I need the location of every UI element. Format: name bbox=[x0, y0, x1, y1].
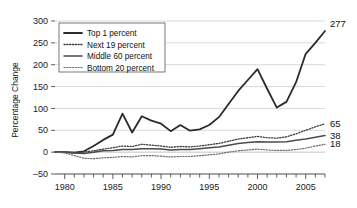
chart-background bbox=[0, 0, 357, 208]
y-tick-label: 250 bbox=[33, 38, 48, 48]
y-axis-label: Percentage Change bbox=[10, 62, 20, 138]
legend-label-2: Middle 60 percent bbox=[87, 52, 153, 61]
y-tick-label: 50 bbox=[38, 125, 48, 135]
x-tick-label: 1980 bbox=[55, 182, 75, 192]
legend-label-0: Top 1 percent bbox=[87, 29, 137, 38]
y-tick-label: 200 bbox=[33, 60, 48, 70]
chart-container: 300250200150100500–50 198019851990199520… bbox=[0, 0, 357, 208]
end-label-0: 277 bbox=[330, 18, 346, 29]
y-tick-label: 100 bbox=[33, 104, 48, 114]
legend: Top 1 percentNext 19 percentMiddle 60 pe… bbox=[59, 23, 165, 73]
end-label-3: 18 bbox=[330, 138, 341, 149]
x-tick-label: 2000 bbox=[247, 182, 267, 192]
y-tick-label: 300 bbox=[33, 16, 48, 26]
x-tick-label: 1985 bbox=[103, 182, 123, 192]
y-tick-label: 150 bbox=[33, 82, 48, 92]
end-label-1: 65 bbox=[330, 118, 341, 129]
legend-label-3: Bottom 20 percent bbox=[87, 64, 155, 73]
y-tick-label: 0 bbox=[43, 147, 48, 157]
line-chart: 300250200150100500–50 198019851990199520… bbox=[0, 0, 357, 208]
y-tick-label: –50 bbox=[33, 169, 48, 179]
x-tick-label: 2005 bbox=[296, 182, 316, 192]
x-tick-label: 1995 bbox=[199, 182, 219, 192]
legend-label-1: Next 19 percent bbox=[87, 41, 146, 50]
x-tick-label: 1990 bbox=[151, 182, 171, 192]
